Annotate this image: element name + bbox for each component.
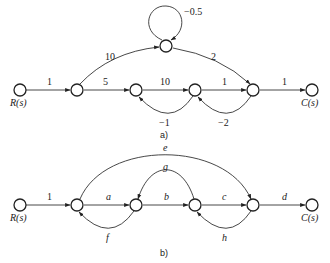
edge-b-n3-n2-feedback [79, 211, 134, 228]
node-a-4 [189, 84, 201, 96]
gain-b-n2-n5-forward: e [163, 142, 168, 153]
edge-a-n5-n4-feedback [198, 96, 251, 113]
gain-a-n4-n3-feedback: −1 [159, 117, 170, 128]
node-b-input [14, 199, 26, 211]
node-b-2 [71, 199, 83, 211]
signal-flow-graphs: 1 10 −0.5 2 5 10 1 1 −1 −2 R(s) C(s) a) [0, 0, 330, 263]
node-a-3 [130, 84, 142, 96]
diagram-a: 1 10 −0.5 2 5 10 1 1 −1 −2 R(s) C(s) a) [9, 6, 319, 140]
edge-a-n4-n3-feedback [139, 96, 193, 113]
input-label-a: R(s) [9, 97, 27, 109]
gain-b-n5-n4-feedback: h [222, 232, 227, 243]
node-b-output [306, 199, 318, 211]
input-label-b: R(s) [9, 212, 27, 224]
gain-b-n2-n3: a [106, 191, 111, 202]
node-a-output [306, 84, 318, 96]
node-a-2 [71, 84, 83, 96]
diagram-b: 1 a b c d e g f h R(s) C(s) b) [9, 142, 319, 258]
output-label-a: C(s) [301, 97, 319, 109]
gain-a-top-n5: 2 [211, 51, 216, 62]
gain-a-self-loop: −0.5 [184, 6, 202, 17]
gain-a-n3-n4: 10 [160, 76, 170, 87]
edge-a-self-loop [149, 6, 182, 40]
edge-a-n2-top [80, 47, 159, 84]
caption-a: a) [160, 130, 168, 140]
gain-a-r-n2: 1 [47, 76, 52, 87]
gain-a-n4-n5: 1 [222, 76, 227, 87]
caption-b: b) [160, 248, 168, 258]
gain-b-n3-n4: b [164, 191, 169, 202]
gain-b-r-n2: 1 [47, 191, 52, 202]
node-a-input [14, 84, 26, 96]
output-label-b: C(s) [301, 212, 319, 224]
edge-b-n5-n4-feedback [197, 211, 251, 228]
gain-a-n5-n4-feedback: −2 [218, 117, 229, 128]
gain-b-n5-c: d [282, 191, 288, 202]
gain-a-n2-n3: 5 [103, 76, 108, 87]
gain-a-n2-top: 10 [105, 51, 115, 62]
gain-b-n4-n3-feedback: g [163, 161, 168, 172]
gain-b-n3-n2-feedback: f [106, 232, 110, 243]
gain-a-n5-c: 1 [282, 76, 287, 87]
node-a-5 [247, 84, 259, 96]
node-b-3 [130, 199, 142, 211]
gain-b-n4-n5: c [222, 191, 227, 202]
node-b-5 [247, 199, 259, 211]
node-a-top [160, 40, 172, 52]
node-b-4 [189, 199, 201, 211]
